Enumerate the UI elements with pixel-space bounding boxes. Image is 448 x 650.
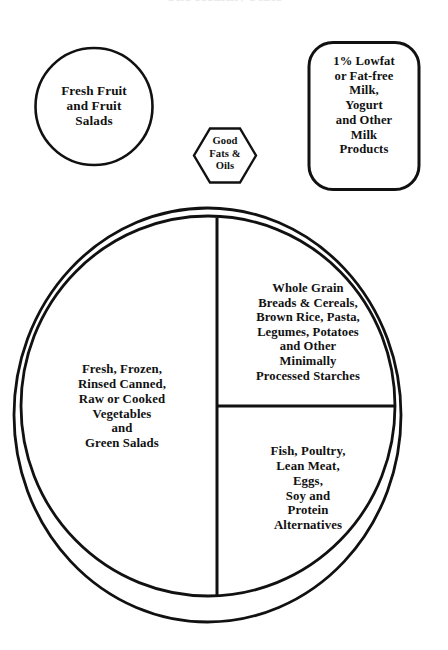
fats-oils-group-label: Good Fats & Oils <box>196 135 254 173</box>
milk-group-label: 1% Lowfat or Fat-free Milk, Yogurt and O… <box>310 54 418 157</box>
grains-group-label: Whole Grain Breads & Cereals, Brown Rice… <box>222 281 394 383</box>
vegetables-group-label: Fresh, Frozen, Rinsed Canned, Raw or Coo… <box>38 362 206 451</box>
fruit-group-label: Fresh Fruit and Fruit Salads <box>44 84 144 128</box>
healthy-plate-diagram: The Healthy Plate Fresh Fruit and Fruit … <box>0 0 448 650</box>
protein-group-label: Fish, Poultry, Lean Meat, Eggs, Soy and … <box>224 444 392 533</box>
